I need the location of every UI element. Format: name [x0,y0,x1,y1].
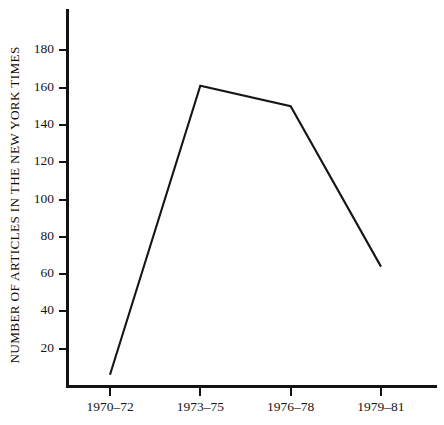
x-tick-label: 1976–78 [246,399,336,415]
y-tick-mark [59,49,67,51]
y-tick-label-wrap: 140 [8,116,54,132]
y-tick-label: 20 [12,340,54,356]
y-tick-mark [59,124,67,126]
x-tick-mark [380,388,382,396]
y-tick-label-wrap: 180 [8,41,54,57]
x-tick-mark [199,388,201,396]
y-tick-mark [59,273,67,275]
y-tick-mark [59,348,67,350]
plot-area: 18016014012010080604020 1970–721973–7519… [0,0,444,425]
y-tick-mark [59,161,67,163]
y-tick-mark [59,310,67,312]
series-polyline [110,86,381,375]
y-tick-label-wrap: 120 [8,153,54,169]
y-tick-label: 140 [12,116,54,132]
x-tick-label: 1970–72 [65,399,155,415]
y-tick-label: 180 [12,41,54,57]
y-tick-label: 40 [12,302,54,318]
y-tick-label-wrap: 100 [8,191,54,207]
y-tick-label: 120 [12,153,54,169]
x-tick-label: 1973–75 [155,399,245,415]
y-tick-label-wrap: 60 [8,265,54,281]
y-tick-mark [59,87,67,89]
x-tick-mark [290,388,292,396]
y-tick-label-wrap: 40 [8,302,54,318]
x-tick-mark [109,388,111,396]
y-tick-label-wrap: 20 [8,340,54,356]
y-tick-label: 100 [12,191,54,207]
y-tick-label-wrap: 80 [8,228,54,244]
y-tick-label: 160 [12,79,54,95]
y-tick-label-wrap: 160 [8,79,54,95]
x-tick-label: 1979–81 [336,399,426,415]
figure-container: NUMBER OF ARTICLES IN THE NEW YORK TIMES… [0,0,444,425]
y-tick-mark [59,236,67,238]
y-tick-label: 80 [12,228,54,244]
y-tick-mark [59,199,67,201]
y-tick-label: 60 [12,265,54,281]
